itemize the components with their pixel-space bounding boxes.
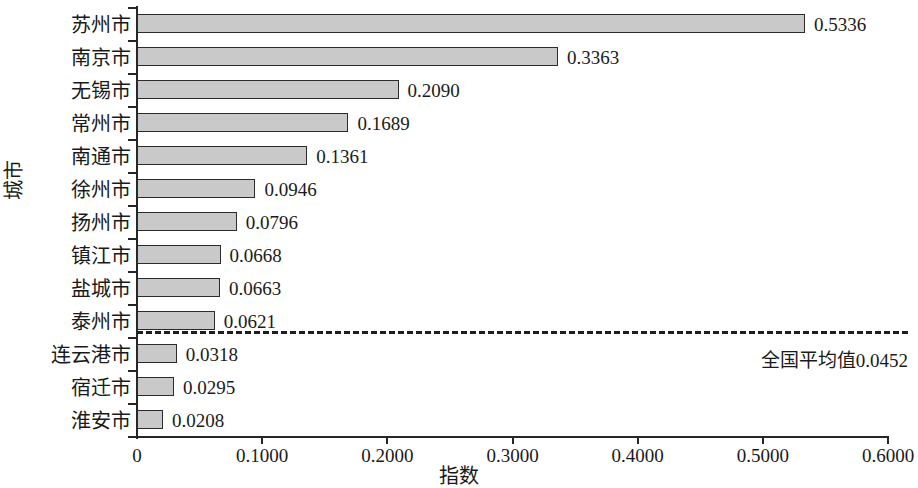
x-axis-tick-label: 0.6000 xyxy=(862,445,914,467)
bar xyxy=(137,245,221,264)
y-axis-tick xyxy=(128,172,137,174)
bar-value-label: 0.0946 xyxy=(264,180,316,199)
category-label: 宿迁市 xyxy=(0,378,131,398)
category-label: 盐城市 xyxy=(0,279,131,299)
category-label: 苏州市 xyxy=(0,15,131,35)
y-axis-tick xyxy=(128,238,137,240)
y-axis-tick xyxy=(128,304,137,306)
x-axis-tick-label: 0 xyxy=(132,445,142,467)
category-label: 泰州市 xyxy=(0,312,131,332)
y-axis-tick xyxy=(128,205,137,207)
category-label: 徐州市 xyxy=(0,180,131,200)
bar xyxy=(137,410,163,429)
bar-value-label: 0.0796 xyxy=(246,213,298,232)
bar-value-label: 0.0295 xyxy=(183,378,235,397)
category-label: 南通市 xyxy=(0,147,131,167)
x-axis-tick-label: 0.1000 xyxy=(236,445,288,467)
bar-value-label: 0.0621 xyxy=(224,312,276,331)
bar xyxy=(137,113,348,132)
bar xyxy=(137,47,558,66)
x-axis-tick-label: 0.2000 xyxy=(361,445,413,467)
bar-value-label: 0.2090 xyxy=(408,81,460,100)
category-label: 常州市 xyxy=(0,114,131,134)
bar xyxy=(137,146,307,165)
x-axis-tick xyxy=(887,437,889,444)
x-axis-tick xyxy=(762,437,764,444)
y-axis-tick xyxy=(128,337,137,339)
plot-area: 0.53360.33630.20900.16890.13610.09460.07… xyxy=(137,8,888,437)
x-axis-tick xyxy=(261,437,263,444)
category-label: 无锡市 xyxy=(0,81,131,101)
x-axis-tick xyxy=(386,437,388,444)
bar-value-label: 0.0208 xyxy=(172,411,224,430)
bar xyxy=(137,278,220,297)
y-axis-tick xyxy=(128,106,137,108)
bar-value-label: 0.5336 xyxy=(814,15,866,34)
category-label: 镇江市 xyxy=(0,246,131,266)
bar-value-label: 0.0668 xyxy=(230,246,282,265)
bar-chart: 0.53360.33630.20900.16890.13610.09460.07… xyxy=(0,0,918,488)
y-axis-tick xyxy=(128,436,137,438)
x-axis-tick-label: 0.4000 xyxy=(612,445,664,467)
x-axis-tick-label: 0.3000 xyxy=(486,445,538,467)
y-axis-tick xyxy=(128,139,137,141)
national-average-line xyxy=(137,331,908,334)
bar xyxy=(137,179,255,198)
bar xyxy=(137,212,237,231)
bar xyxy=(137,80,399,99)
x-axis-tick xyxy=(512,437,514,444)
y-axis-tick xyxy=(128,7,137,9)
category-label: 南京市 xyxy=(0,48,131,68)
category-label: 扬州市 xyxy=(0,213,131,233)
bar xyxy=(137,14,805,33)
y-axis-tick xyxy=(128,73,137,75)
bar xyxy=(137,311,215,330)
x-axis-tick-label: 0.5000 xyxy=(737,445,789,467)
x-axis-title: 指数 xyxy=(0,466,918,487)
y-axis-tick xyxy=(128,271,137,273)
bar-value-label: 0.0663 xyxy=(229,279,281,298)
national-average-label: 全国平均值0.0452 xyxy=(0,351,908,371)
bar-value-label: 0.3363 xyxy=(567,48,619,67)
category-label: 淮安市 xyxy=(0,411,131,431)
bar xyxy=(137,377,174,396)
y-axis-tick xyxy=(128,403,137,405)
y-axis-tick xyxy=(128,40,137,42)
bar-value-label: 0.1689 xyxy=(357,114,409,133)
bar-value-label: 0.1361 xyxy=(316,147,368,166)
x-axis-tick xyxy=(637,437,639,444)
